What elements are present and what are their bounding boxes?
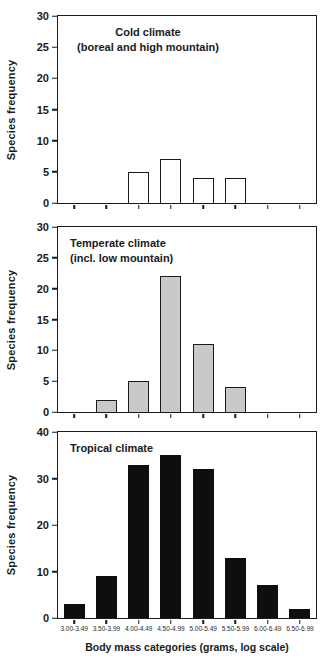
y-axis-label: Species frequency xyxy=(5,269,17,370)
y-tick-label: 30 xyxy=(37,11,49,22)
y-tick-label: 10 xyxy=(37,345,49,356)
x-tick xyxy=(299,205,301,210)
bar xyxy=(128,172,149,203)
y-axis-label-wrap: Species frequency xyxy=(2,226,20,413)
x-tick xyxy=(235,620,237,625)
x-tick xyxy=(170,414,172,419)
y-tick xyxy=(52,78,57,80)
x-tick-label: 5.50-5.99 xyxy=(222,625,249,632)
y-tick xyxy=(52,319,57,321)
y-tick-label: 20 xyxy=(37,520,49,531)
x-tick xyxy=(235,414,237,419)
bar xyxy=(96,576,117,618)
y-tick-label: 25 xyxy=(37,252,49,263)
bar xyxy=(96,400,117,412)
y-tick-label: 20 xyxy=(37,73,49,84)
x-tick xyxy=(267,414,269,419)
x-tick xyxy=(299,414,301,419)
chart-title: Cold climate (boreal and high mountain) xyxy=(68,25,228,55)
chart-title-line-2: (boreal and high mountain) xyxy=(68,40,228,55)
x-tick xyxy=(73,620,75,625)
x-tick xyxy=(106,414,108,419)
tropical-climate-plot-area: Tropical climate 0102030403.00-3.493.50-… xyxy=(57,431,317,619)
y-axis-label-wrap: Species frequency xyxy=(2,15,20,204)
x-tick-label: 6.50-6.99 xyxy=(286,625,313,632)
x-tick xyxy=(106,620,108,625)
y-tick-label: 20 xyxy=(37,283,49,294)
x-tick xyxy=(138,205,140,210)
bar xyxy=(128,465,149,618)
x-tick-label: 4.00-4.49 xyxy=(125,625,152,632)
x-tick-label: 4.50-4.99 xyxy=(157,625,184,632)
chart-title-line-1: Tropical climate xyxy=(70,441,153,456)
y-tick xyxy=(52,15,57,17)
y-axis-label-wrap: Species frequency xyxy=(2,431,20,619)
y-tick xyxy=(52,478,57,480)
x-tick xyxy=(138,620,140,625)
bar xyxy=(160,455,181,618)
x-tick xyxy=(202,620,204,625)
x-tick xyxy=(299,620,301,625)
chart-title: Temperate climate (incl. low mountain) xyxy=(70,236,173,266)
y-tick xyxy=(52,350,57,352)
x-tick xyxy=(138,414,140,419)
bar xyxy=(160,159,181,203)
x-tick xyxy=(235,205,237,210)
three-panel-histogram-figure: Species frequency Cold climate (boreal a… xyxy=(0,0,335,668)
y-tick xyxy=(52,288,57,290)
y-tick-label: 0 xyxy=(43,613,49,624)
cold-climate-plot-area: Cold climate (boreal and high mountain) … xyxy=(57,15,317,204)
y-tick-label: 15 xyxy=(37,104,49,115)
chart-title: Tropical climate xyxy=(70,441,153,456)
y-tick-label: 15 xyxy=(37,314,49,325)
bar xyxy=(225,558,246,618)
x-tick xyxy=(170,620,172,625)
bar xyxy=(160,276,181,412)
chart-title-line-1: Cold climate xyxy=(68,25,228,40)
x-axis-title: Body mass categories (grams, log scale) xyxy=(57,641,317,653)
x-tick-label: 5.00-5.49 xyxy=(189,625,216,632)
y-tick-label: 25 xyxy=(37,42,49,53)
bar xyxy=(128,381,149,412)
y-tick xyxy=(52,140,57,142)
y-tick xyxy=(52,524,57,526)
y-tick xyxy=(52,571,57,573)
cold-climate-panel: Species frequency Cold climate (boreal a… xyxy=(0,15,335,204)
y-tick xyxy=(52,380,57,382)
bar xyxy=(289,609,310,618)
y-axis-label: Species frequency xyxy=(5,475,17,576)
y-tick xyxy=(52,226,57,228)
x-tick xyxy=(73,414,75,419)
chart-title-line-2: (incl. low mountain) xyxy=(70,251,173,266)
y-tick-label: 10 xyxy=(37,566,49,577)
temperate-climate-panel: Species frequency Temperate climate (inc… xyxy=(0,226,335,413)
x-tick-label: 3.50-3.99 xyxy=(93,625,120,632)
y-tick-label: 30 xyxy=(37,222,49,233)
x-tick xyxy=(267,620,269,625)
y-tick xyxy=(52,171,57,173)
y-tick xyxy=(52,257,57,259)
bar xyxy=(64,604,85,618)
y-tick-label: 10 xyxy=(37,135,49,146)
y-tick-label: 5 xyxy=(43,166,49,177)
y-tick-label: 0 xyxy=(43,198,49,209)
bar xyxy=(257,585,278,618)
x-tick xyxy=(73,205,75,210)
x-tick xyxy=(202,414,204,419)
chart-title-line-1: Temperate climate xyxy=(70,236,173,251)
x-tick xyxy=(170,205,172,210)
y-tick xyxy=(52,431,57,433)
y-tick-label: 0 xyxy=(43,407,49,418)
tropical-climate-panel: Species frequency Tropical climate 01020… xyxy=(0,431,335,619)
temperate-climate-plot-area: Temperate climate (incl. low mountain) 0… xyxy=(57,226,317,413)
y-tick xyxy=(52,617,57,619)
bar xyxy=(225,387,246,412)
bar xyxy=(193,178,214,203)
y-axis-label: Species frequency xyxy=(5,59,17,160)
bar xyxy=(193,469,214,618)
y-tick-label: 30 xyxy=(37,473,49,484)
x-tick xyxy=(267,205,269,210)
x-tick-label: 6.00-6.49 xyxy=(254,625,281,632)
y-tick-label: 5 xyxy=(43,376,49,387)
x-tick-label: 3.00-3.49 xyxy=(60,625,87,632)
